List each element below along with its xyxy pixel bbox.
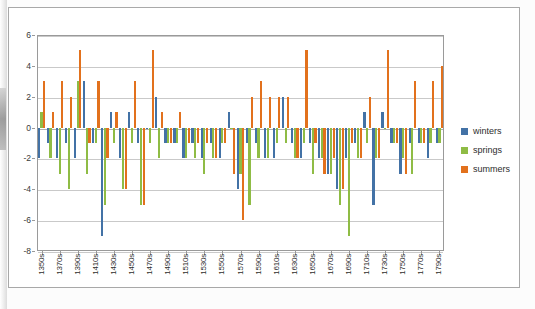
bar-springs (59, 128, 61, 174)
bar-winters (228, 112, 230, 127)
bar-summers (115, 112, 117, 127)
x-tick-label: 1690s (345, 254, 353, 275)
x-tick-mark (331, 251, 332, 254)
bar-group (290, 35, 299, 251)
x-tick-label: 1550s (218, 254, 226, 275)
x-tick-mark (96, 251, 97, 254)
bar-summers (61, 81, 63, 127)
bar-group (127, 35, 136, 251)
x-tick-mark (367, 251, 368, 254)
bar-summers (423, 128, 425, 143)
bar-group (245, 35, 254, 251)
bar-winters (363, 112, 365, 127)
x-tick-mark (150, 251, 151, 254)
bar-group (200, 35, 209, 251)
bar-group (37, 35, 46, 251)
chart-container: 6420-2-4-6-8 1350s1370s1390s1410s1430s14… (9, 8, 519, 287)
legend-swatch-icon (461, 128, 468, 135)
bar-group (209, 35, 218, 251)
x-tick-label: 1410s (92, 254, 100, 275)
y-tick-label: 0 (26, 123, 31, 132)
bar-winters (282, 97, 284, 128)
legend-item-springs[interactable]: springs (461, 145, 523, 155)
bar-summers (52, 112, 54, 127)
bar-group (164, 35, 173, 251)
y-tick-label: -8 (23, 247, 31, 256)
x-tick-label: 1590s (255, 254, 263, 275)
bar-group (435, 35, 444, 251)
scan-blob-artifact (0, 88, 6, 150)
bar-summers (206, 128, 208, 143)
bar-group (236, 35, 245, 251)
bar-springs (411, 128, 413, 174)
bar-group (272, 35, 281, 251)
x-tick-mark (42, 251, 43, 254)
bar-group (227, 35, 236, 251)
legend-item-winters[interactable]: winters (461, 126, 523, 136)
bar-springs (438, 128, 440, 143)
x-tick-label: 1450s (128, 254, 136, 275)
bar-group (218, 35, 227, 251)
bar-group (173, 35, 182, 251)
y-tick-label: -4 (23, 185, 31, 194)
y-tick-label: -2 (23, 154, 31, 163)
legend-swatch-icon (461, 166, 468, 173)
legend-swatch-icon (461, 147, 468, 154)
bar-group (299, 35, 308, 251)
scan-edge-artifact (0, 0, 7, 309)
bar-springs (49, 128, 51, 159)
bar-group (118, 35, 127, 251)
bar-springs (131, 128, 133, 143)
bar-summers (251, 97, 253, 128)
y-tick-mark (32, 128, 35, 129)
bar-group (326, 35, 335, 251)
legend-item-summers[interactable]: summers (461, 164, 523, 174)
bar-summers (170, 128, 172, 143)
x-tick-label: 1370s (56, 254, 64, 275)
bar-winters (110, 112, 112, 127)
bar-group (345, 35, 354, 251)
legend-item-label: winters (473, 127, 502, 136)
bar-group (46, 35, 55, 251)
bars-layer (37, 35, 444, 251)
bar-summers (97, 81, 99, 127)
bar-springs (384, 128, 386, 129)
bar-summers (179, 112, 181, 127)
bar-summers (88, 128, 90, 143)
x-tick-label: 1530s (200, 254, 208, 275)
x-tick-mark (403, 251, 404, 254)
page: 6420-2-4-6-8 1350s1370s1390s1410s1430s14… (0, 0, 535, 309)
y-tick-label: 6 (26, 31, 31, 40)
bar-group (109, 35, 118, 251)
bar-summers (224, 128, 226, 143)
bar-summers (79, 50, 81, 127)
x-tick-label: 1610s (273, 254, 281, 275)
bar-group (390, 35, 399, 251)
x-tick-mark (349, 251, 350, 254)
bar-summers (188, 128, 190, 143)
bar-summers (106, 128, 108, 159)
x-tick-label: 1670s (327, 254, 335, 275)
bar-winters (38, 128, 40, 159)
x-tick-label: 1630s (291, 254, 299, 275)
bar-winters (381, 112, 383, 127)
bar-summers (287, 97, 289, 128)
bar-springs (176, 128, 178, 143)
bar-summers (296, 128, 298, 159)
x-tick-mark (259, 251, 260, 254)
bar-summers (378, 128, 380, 159)
x-tick-label: 1390s (74, 254, 82, 275)
x-tick-label: 1430s (110, 254, 118, 275)
bar-summers (70, 97, 72, 128)
bar-group (55, 35, 64, 251)
x-tick-label: 1650s (309, 254, 317, 275)
bar-springs (285, 128, 287, 143)
bar-group (254, 35, 263, 251)
bar-springs (276, 128, 278, 143)
bar-summers (215, 128, 217, 159)
bar-summers (360, 128, 362, 159)
bar-summers (161, 112, 163, 127)
bar-summers (278, 97, 280, 128)
x-tick-label: 1730s (381, 254, 389, 275)
y-tick-label: 4 (26, 62, 31, 71)
